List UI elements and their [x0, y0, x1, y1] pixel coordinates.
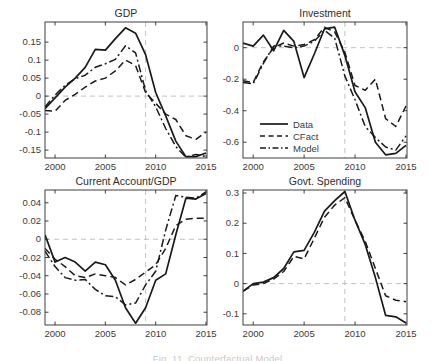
y-tick-label: -0.6 — [223, 136, 239, 147]
y-tick-label: 0.1 — [28, 54, 41, 65]
x-tick-label: 2005 — [294, 328, 315, 339]
series-data-line — [45, 194, 206, 324]
series-cfact-line — [45, 60, 206, 139]
x-tick-label: 2015 — [195, 328, 216, 339]
y-tick-label: 0.02 — [23, 215, 42, 226]
subplot-govt-spending: 20002005201020150.30.20.10-0.1Govt. Spen… — [223, 175, 417, 339]
y-tick-label: 0 — [36, 90, 41, 101]
y-tick-label: -0.2 — [223, 73, 239, 84]
y-tick-label: -0.04 — [19, 270, 41, 281]
x-tick-label: 2000 — [44, 161, 65, 172]
legend-label-model: Model — [293, 143, 319, 154]
x-tick-label: 2015 — [395, 328, 416, 339]
chart-title: Govt. Spending — [289, 175, 362, 187]
x-tick-label: 2005 — [95, 161, 116, 172]
subplot-current-account-gdp: 20002005201020150.040.020-0.02-0.04-0.06… — [19, 175, 216, 339]
y-tick-label: 0.3 — [226, 187, 239, 198]
y-tick-label: -0.05 — [19, 108, 41, 119]
series-group — [45, 28, 206, 158]
chart-title: Current Account/GDP — [76, 175, 177, 187]
x-tick-label: 2015 — [395, 161, 416, 172]
x-tick-label: 2010 — [344, 161, 365, 172]
x-tick-label: 2000 — [243, 328, 264, 339]
y-tick-label: -0.02 — [19, 252, 41, 263]
series-model-line — [45, 46, 206, 158]
x-tick-label: 2010 — [145, 161, 166, 172]
series-cfact-line — [45, 218, 206, 285]
figure-svg: 20002005201020150.150.10.050-0.05-0.1-0.… — [0, 0, 435, 361]
y-tick-label: 0.04 — [23, 197, 42, 208]
x-tick-label: 2005 — [294, 161, 315, 172]
y-tick-label: -0.1 — [25, 126, 41, 137]
x-tick-label: 2015 — [195, 161, 216, 172]
legend-label-cfact: CFact — [293, 131, 319, 142]
chart-title: Investment — [299, 7, 350, 19]
figure-caption: Fig. 11. Counterfactual Model — [0, 353, 435, 361]
y-tick-label: -0.08 — [19, 306, 41, 317]
y-tick-label: -0.4 — [223, 105, 239, 116]
y-tick-label: -0.06 — [19, 288, 41, 299]
subplot-investment: 20002005201020150-0.2-0.4-0.6InvestmentD… — [223, 7, 417, 172]
series-group — [243, 27, 406, 155]
chart-title: GDP — [115, 7, 138, 19]
series-model-line — [45, 192, 206, 305]
x-tick-label: 2010 — [145, 328, 166, 339]
y-tick-label: -0.1 — [223, 308, 239, 319]
y-tick-label: 0.1 — [226, 248, 239, 259]
legend: DataCFactModel — [260, 119, 319, 154]
y-tick-label: 0 — [234, 42, 239, 53]
series-data-line — [243, 27, 406, 155]
y-tick-label: 0 — [234, 278, 239, 289]
y-tick-label: -0.15 — [19, 144, 41, 155]
y-tick-label: 0.15 — [23, 36, 42, 47]
series-data-line — [243, 192, 406, 323]
subplot-gdp: 20002005201020150.150.10.050-0.05-0.1-0.… — [19, 7, 216, 172]
legend-label-data: Data — [293, 119, 314, 130]
x-tick-label: 2005 — [95, 328, 116, 339]
y-tick-label: 0 — [36, 233, 41, 244]
series-group — [45, 192, 206, 323]
series-data-line — [45, 28, 206, 157]
series-cfact-line — [243, 198, 406, 302]
y-tick-label: 0.2 — [226, 217, 239, 228]
series-group — [243, 192, 406, 323]
series-model-line — [243, 30, 406, 150]
axis-frame — [45, 22, 207, 158]
x-tick-label: 2000 — [44, 328, 65, 339]
x-tick-label: 2010 — [344, 328, 365, 339]
y-tick-label: 0.05 — [23, 72, 42, 83]
x-tick-label: 2000 — [243, 161, 264, 172]
figure-panel: 20002005201020150.150.10.050-0.05-0.1-0.… — [0, 0, 435, 361]
